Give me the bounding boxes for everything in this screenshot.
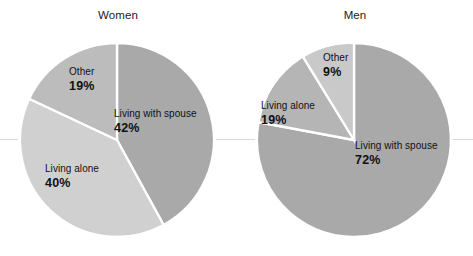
pie-men xyxy=(255,41,453,239)
pie-chart-figure: Women Living wit xyxy=(0,0,473,256)
pie-women-svg xyxy=(18,41,216,239)
chart-title-men: Men xyxy=(237,9,473,21)
chart-title-women: Women xyxy=(0,9,236,21)
chart-men: Men Living with xyxy=(237,0,473,256)
pie-men-svg xyxy=(255,41,453,239)
chart-women: Women Living wit xyxy=(0,0,236,256)
pie-women xyxy=(18,41,216,239)
